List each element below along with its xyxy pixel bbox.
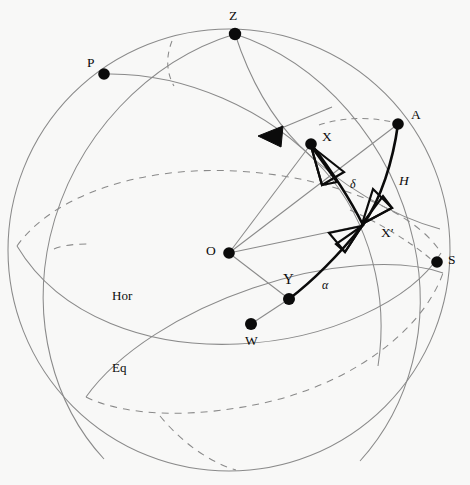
rotation-arrow-head-icon — [258, 126, 283, 147]
point-label-S: S — [448, 253, 456, 267]
inner-dashed-arc-lower — [160, 416, 236, 470]
inner-dashed-arc-lower-left — [54, 244, 88, 249]
point-dot-X — [305, 138, 317, 150]
point-label-vernal-equinox: Υ — [283, 272, 294, 287]
horizon-front-arc — [17, 246, 441, 344]
point-dot-O — [223, 247, 235, 259]
curve-label-equator: Eq — [112, 361, 126, 374]
point-dot-gamma — [283, 293, 295, 305]
point-dot-Z — [229, 28, 241, 40]
hour-circle-arc — [104, 74, 381, 366]
chord-gamma-to-W — [251, 299, 289, 324]
angle-label-right-ascension: α — [322, 279, 328, 291]
radius-O-to-X — [229, 144, 311, 253]
point-label-W: W — [245, 334, 258, 348]
point-label-O: O — [206, 244, 216, 258]
point-dot-S — [431, 256, 443, 268]
point-dot-W — [245, 318, 257, 330]
radius-O-to-gamma — [229, 253, 289, 299]
arc-H — [363, 124, 398, 225]
equator-front-arc — [86, 265, 443, 397]
point-label-X-prime: X′ — [381, 226, 394, 240]
horizon-back-arc — [17, 170, 441, 253]
vertical-circle-arc — [235, 34, 440, 229]
curve-label-horizon: Hor — [112, 289, 132, 302]
point-dot-A — [392, 118, 404, 130]
point-label-X: X — [322, 130, 332, 144]
point-dot-P — [98, 68, 110, 80]
equator-back-arc — [86, 273, 443, 413]
point-label-P: P — [87, 56, 95, 70]
celestial-sphere-diagram: Z P A X X′ O S Υ W Hor Eq δ H α — [0, 0, 470, 485]
point-label-Z: Z — [229, 9, 237, 23]
angle-label-hour-angle: H — [399, 174, 409, 188]
sphere-graphics — [0, 0, 470, 485]
point-label-A: A — [411, 108, 421, 122]
angle-label-declination: δ — [350, 178, 356, 190]
